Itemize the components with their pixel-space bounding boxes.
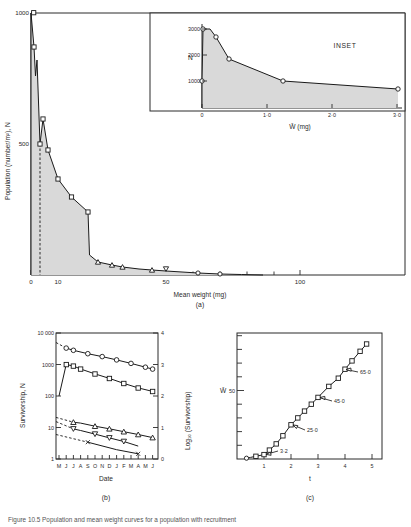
- panel-b-chart: 10 000 1000 100 10 1 4 3 2 1 0 M J J: [0, 318, 215, 527]
- panel-b-xtick-6: N: [100, 463, 104, 469]
- panel-b-xtick-8: J: [115, 463, 118, 469]
- panel-c-annotations: 3·2 25·0 45·0 65·0: [266, 368, 371, 455]
- panel-a-tag: (a): [196, 301, 204, 309]
- panel-a-chart: 1000 500 0 10 50 100: [0, 0, 411, 310]
- panel-b-xtick-4: S: [86, 463, 90, 469]
- panel-a-ylabel: Population (number/m²), N: [4, 122, 12, 200]
- panel-b-xtick-10: M: [129, 463, 134, 469]
- panel-a-ytick-1000: 1000: [15, 9, 29, 16]
- panel-c-xtick-2: 2: [290, 463, 293, 469]
- panel-c-tag: (c): [306, 494, 314, 502]
- panel-c-xtick-5: 5: [371, 463, 374, 469]
- panel-a-inset-xtick-0: 0: [201, 112, 204, 118]
- panel-b-ytick-right-2: 2: [161, 393, 164, 399]
- panel-a-xtick-100: 100: [295, 278, 306, 285]
- panel-b-ytick-100: 100: [45, 393, 54, 399]
- panel-b-xtick-0: M: [57, 463, 62, 469]
- panel-b-series-cohort-5: [56, 435, 140, 456]
- panel-a-inset-xtick-3: 3·0: [393, 112, 401, 118]
- panel-a-inset-ylabel: N: [188, 54, 193, 61]
- panel-a-inset-xlabel: W̄ (mg): [289, 123, 311, 131]
- panel-a-xlabel: Mean weight (mg): [174, 291, 227, 299]
- panel-a-inset-ytick-1000: 1000: [188, 78, 200, 84]
- panel-b-tag: (b): [102, 494, 110, 502]
- panel-c-xtick-1: 1: [263, 463, 266, 469]
- panel-c-curve: [247, 344, 367, 458]
- panel-b-ytick-1000: 1000: [42, 362, 54, 368]
- panel-b-ytick-right-1: 1: [161, 425, 164, 431]
- panel-c-xtick-3: 3: [317, 463, 320, 469]
- panel-a-inset-ytick-3000: 3000: [188, 26, 200, 32]
- panel-b-xtick-2: J: [72, 463, 75, 469]
- panel-b-xtick-1: J: [65, 463, 68, 469]
- panel-a-inset: 3000 2000 1000 0 1·0 2·0 3·0 N W̄ (mg) I…: [150, 13, 405, 131]
- panel-b-xtick-5: O: [93, 463, 97, 469]
- panel-b-xlabel: Date: [99, 475, 113, 482]
- panel-b-ytick-right-4: 4: [161, 330, 164, 336]
- panel-a-inset-xtick-1: 1·0: [263, 112, 271, 118]
- panel-a-xtick-0: 0: [29, 278, 33, 285]
- panel-b-ytick-1: 1: [51, 456, 54, 462]
- panel-c-xlabel: t: [309, 475, 311, 482]
- figure-caption: Figure 10.5 Population and mean weight c…: [8, 516, 406, 524]
- panel-b-xtick-9: F: [122, 463, 126, 469]
- panel-a-ytick-500: 500: [19, 140, 30, 147]
- panel-c-annotation-25-0: 25·0: [307, 427, 318, 433]
- panel-c-annotation-65-0: 65·0: [360, 369, 371, 375]
- panel-b-ytick-right-3: 3: [161, 362, 164, 368]
- panel-a-inset-title: INSET: [333, 42, 356, 49]
- panel-c-ylabel: W̄: [220, 387, 227, 394]
- panel-a-inset-xtick-2: 2·0: [328, 112, 336, 118]
- panel-b-ylabel-right: Log₁₀ (Survivorship): [184, 392, 192, 450]
- figure-caption-text: Figure 10.5 Population and mean weight c…: [8, 516, 236, 523]
- panel-b-xtick-13: J: [151, 463, 154, 469]
- panel-c-ytick-50: 50: [229, 388, 235, 394]
- panel-c-annotation-45-0: 45·0: [334, 398, 345, 404]
- panel-b-ytick-10: 10: [48, 425, 54, 431]
- panel-b-y-ticks-left: 10 000 1000 100 10 1: [38, 330, 62, 462]
- panel-c-markers: [244, 342, 368, 461]
- panel-b-ytick-right-0: 0: [161, 456, 164, 462]
- panel-b-x-ticks: M J J A S O N D J F M A M J: [57, 455, 154, 469]
- panel-b-xtick-11: A: [136, 463, 140, 469]
- panel-c-annotation-3-2: 3·2: [280, 448, 288, 454]
- panel-b-series-cohort-2: [59, 362, 155, 396]
- figure-container: 1000 500 0 10 50 100: [0, 0, 411, 527]
- panel-c-xtick-4: 4: [344, 463, 347, 469]
- panel-b-ylabel-left: Survivorship, N: [19, 383, 27, 428]
- panel-b-xtick-7: D: [107, 463, 111, 469]
- panel-b-ytick-10000: 10 000: [38, 330, 55, 336]
- panel-a-xtick-10: 10: [55, 278, 62, 285]
- panel-c-x-ticks: 1 2 3 4 5: [263, 454, 374, 469]
- panel-b-xtick-12: M: [143, 463, 148, 469]
- panel-a-xtick-50: 50: [163, 278, 170, 285]
- panel-b-xtick-3: A: [79, 463, 83, 469]
- panel-c-chart: 50 1 2 3 4 5 3·2: [215, 318, 411, 527]
